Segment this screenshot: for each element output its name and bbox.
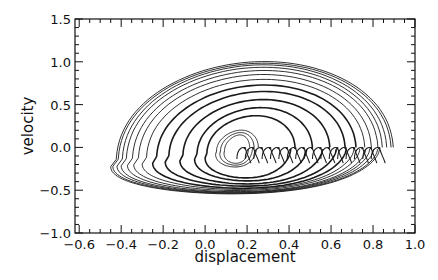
hook-dot [328,147,330,149]
hook-dot [378,147,380,149]
phase-plot: −0.6−0.4−0.20.00.20.40.60.81.0 −1.0−0.50… [0,0,438,280]
hook-dot [252,147,254,149]
x-axis-ticks: −0.6−0.4−0.20.00.20.40.60.81.0 [63,19,425,252]
y-axis-title: velocity [19,97,37,156]
hook-dot [370,147,372,149]
hook-dot [319,147,321,149]
y-tick-label: 1.5 [50,12,71,27]
x-axis-title: displacement [194,248,295,266]
x-tick-label: 1.0 [405,237,426,252]
y-tick-label: −1.0 [39,226,71,241]
hook-dot [302,147,304,149]
hook-dot [294,147,296,149]
hook-dot [336,147,338,149]
hook-dot [286,147,288,149]
y-axis-ticks: −1.0−0.50.00.51.01.5 [39,12,415,241]
y-tick-label: −0.5 [39,183,71,198]
x-tick-label: 0.8 [363,237,384,252]
trajectory-curves [111,62,394,194]
settling-hooks [237,147,385,163]
hook-dot [244,147,246,149]
y-tick-label: 0.5 [50,98,71,113]
hook-dot [277,147,279,149]
hook-dot [353,147,355,149]
hook-dot [344,147,346,149]
y-tick-label: 0.0 [50,140,71,155]
trajectory-line [165,92,345,187]
trajectory-line [117,65,387,193]
hook-dot [260,147,262,149]
hook-dot [269,147,271,149]
hook-dot [311,147,313,149]
hook-dot [361,147,363,149]
x-tick-label: −0.2 [147,237,179,252]
x-tick-label: −0.4 [105,237,137,252]
y-tick-label: 1.0 [50,55,71,70]
x-tick-label: 0.6 [321,237,342,252]
